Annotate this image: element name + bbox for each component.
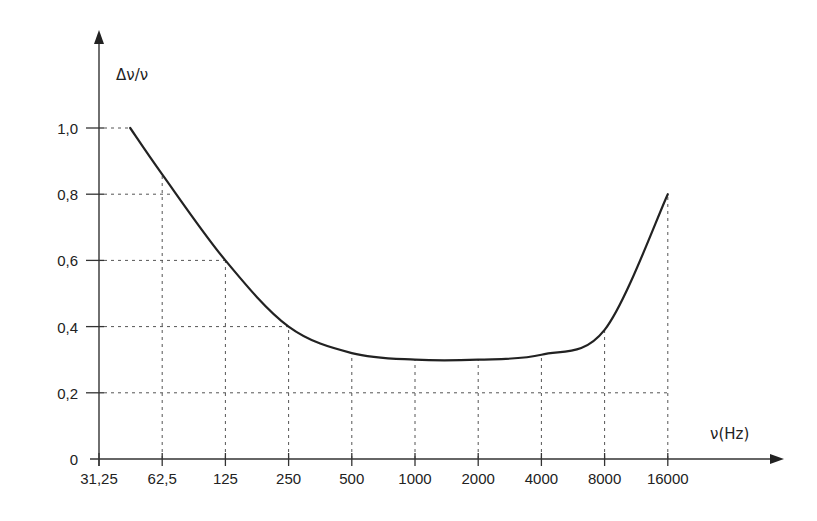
x-tick-label: 1000 [398,470,431,487]
y-tick-label: 1,0 [57,120,78,137]
x-tick-label: 250 [276,470,301,487]
x-tick-label: 4000 [525,470,558,487]
y-tick-label: 0,6 [57,252,78,269]
y-tick-label: 0,8 [57,186,78,203]
x-tick-label: 2000 [462,470,495,487]
y-axis-title: Δν/ν [116,66,148,84]
grid-lines [104,128,668,459]
tick-labels: 31,2562,51252505001000200040008000160000… [57,120,689,487]
axes [90,30,784,466]
x-tick-label: 16000 [647,470,689,487]
chart: 31,2562,51252505001000200040008000160000… [0,0,817,521]
ticks [86,128,668,466]
y-axis-arrow-icon [94,30,104,44]
curve [130,128,668,360]
x-axis-title: ν(Hz) [710,425,749,443]
x-tick-label: 31,25 [80,470,118,487]
y-tick-label: 0,4 [57,319,78,336]
x-tick-label: 8000 [588,470,621,487]
y-tick-label: 0 [70,451,78,468]
x-tick-label: 125 [213,470,238,487]
x-tick-label: 500 [339,470,364,487]
x-axis-arrow-icon [770,454,784,464]
x-tick-label: 62,5 [148,470,177,487]
y-tick-label: 0,2 [57,385,78,402]
